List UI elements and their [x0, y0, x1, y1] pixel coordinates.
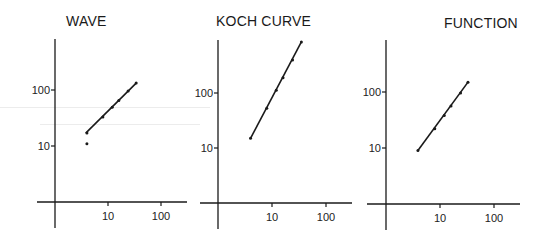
wave-x-tick-label: 10: [102, 210, 114, 222]
koch-curve-data-point: [282, 76, 285, 79]
wave-data-point: [117, 99, 120, 102]
plots-canvas: 101001010010100101001010010100: [0, 0, 549, 240]
function-data-point: [416, 149, 419, 152]
function-x-tick-label: 10: [434, 212, 446, 224]
figure: WAVE KOCH CURVE FUNCTION 101001010010100…: [0, 0, 549, 240]
koch-curve-data-point: [265, 107, 268, 110]
function-data-point: [459, 91, 462, 94]
wave-data-point: [111, 106, 114, 109]
wave-y-tick-label: 100: [32, 84, 50, 96]
wave-data-point: [127, 89, 130, 92]
wave-x-tick-label: 100: [152, 210, 170, 222]
wave-data-point: [101, 115, 104, 118]
function-data-point: [450, 105, 453, 108]
koch-curve-data-point: [300, 40, 303, 43]
wave-data-point: [85, 142, 88, 145]
koch-curve-data-point: [275, 89, 278, 92]
function-x-tick-label: 100: [485, 212, 503, 224]
function-y-tick-label: 100: [363, 86, 381, 98]
function-y-tick-label: 10: [369, 142, 381, 154]
function-data-point: [466, 81, 469, 84]
koch-curve-x-tick-label: 100: [317, 211, 335, 223]
koch-curve-y-tick-label: 10: [201, 142, 213, 154]
wave-y-tick-label: 10: [38, 140, 50, 152]
koch-curve-data-point: [291, 58, 294, 61]
function-data-point: [433, 127, 436, 130]
function-data-point: [443, 114, 446, 117]
koch-curve-y-tick-label: 100: [195, 87, 213, 99]
wave-data-point: [85, 132, 88, 135]
koch-curve-data-point: [249, 137, 252, 140]
koch-curve-x-tick-label: 10: [266, 211, 278, 223]
wave-data-point: [135, 82, 138, 85]
